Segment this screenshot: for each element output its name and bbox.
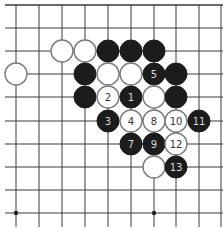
- black-stone: 3: [97, 110, 119, 132]
- white-stone: [120, 63, 142, 85]
- black-stone: 11: [188, 110, 210, 132]
- black-stone: [74, 86, 96, 108]
- white-stone: [97, 63, 119, 85]
- black-stone-disc: [165, 86, 187, 108]
- star-point: [14, 211, 18, 215]
- black-stone: 9: [143, 133, 165, 155]
- black-stone-disc: [97, 40, 119, 62]
- white-stone-disc: [143, 86, 165, 108]
- move-number-label: 8: [151, 116, 157, 127]
- black-stone-disc: [74, 63, 96, 85]
- white-stone: 4: [120, 110, 142, 132]
- white-stone-disc: [97, 63, 119, 85]
- go-board: 5213481011791213: [0, 0, 223, 231]
- move-number-label: 1: [128, 92, 134, 103]
- black-stone: [143, 40, 165, 62]
- white-stone-disc: [5, 63, 27, 85]
- black-stone: [120, 40, 142, 62]
- black-stone-disc: [143, 40, 165, 62]
- white-stone-disc: [143, 156, 165, 178]
- white-stone-disc: [74, 40, 96, 62]
- white-stone: [143, 156, 165, 178]
- black-stone: [74, 63, 96, 85]
- move-number-label: 5: [151, 69, 157, 80]
- move-number-label: 11: [193, 116, 206, 127]
- black-stone: [165, 63, 187, 85]
- move-number-label: 2: [105, 92, 111, 103]
- move-number-label: 12: [170, 139, 183, 150]
- black-stone-disc: [74, 86, 96, 108]
- white-stone: [74, 40, 96, 62]
- white-stone: [143, 86, 165, 108]
- move-number-label: 4: [128, 116, 134, 127]
- black-stone-disc: [120, 40, 142, 62]
- move-number-label: 9: [151, 139, 157, 150]
- move-number-label: 10: [170, 116, 183, 127]
- white-stone: 12: [165, 133, 187, 155]
- white-stone-disc: [120, 63, 142, 85]
- move-number-label: 3: [105, 116, 111, 127]
- black-stone: 1: [120, 86, 142, 108]
- black-stone: [165, 86, 187, 108]
- move-number-label: 13: [170, 162, 183, 173]
- white-stone: [5, 63, 27, 85]
- black-stone: [97, 40, 119, 62]
- black-stone: 5: [143, 63, 165, 85]
- black-stone: 7: [120, 133, 142, 155]
- white-stone-disc: [51, 40, 73, 62]
- white-stone: 2: [97, 86, 119, 108]
- black-stone-disc: [165, 63, 187, 85]
- white-stone: [51, 40, 73, 62]
- black-stone: 13: [165, 156, 187, 178]
- star-point: [152, 211, 156, 215]
- white-stone: 10: [165, 110, 187, 132]
- white-stone: 8: [143, 110, 165, 132]
- move-number-label: 7: [128, 139, 134, 150]
